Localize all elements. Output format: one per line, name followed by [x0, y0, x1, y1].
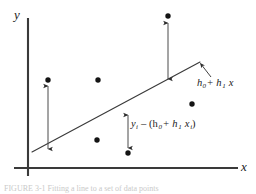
- point-upper-mid: [95, 77, 100, 82]
- figure-caption: FIGURE 3-1 Fitting a line to a set of da…: [4, 184, 254, 194]
- line-eq-x: x: [226, 77, 234, 88]
- residual-y: y: [131, 118, 136, 129]
- figure-canvas: [0, 0, 256, 194]
- line-eq-pointer: [201, 64, 212, 78]
- regression-figure: y x h0+ h1 x yi – (h0+ h1 xi) FIGURE 3-1…: [0, 0, 256, 194]
- residual-close-paren: ): [192, 118, 196, 129]
- point-residual-end: [125, 150, 130, 155]
- point-top-right: [165, 13, 170, 18]
- data-points-group: [45, 13, 194, 155]
- residual-minus-open: – (h: [138, 118, 158, 129]
- point-upper-left: [45, 77, 50, 82]
- line-eq-plus-h: + h: [206, 77, 222, 88]
- residual-equation-label: yi – (h0+ h1 xi): [131, 119, 196, 131]
- point-right: [189, 101, 194, 106]
- x-axis-label: x: [241, 160, 247, 173]
- regression-line: [32, 62, 200, 152]
- point-lower-mid: [94, 137, 99, 142]
- regression-line-equation-label: h0+ h1 x: [197, 78, 234, 90]
- y-axis-label: y: [14, 8, 20, 21]
- residual-plus-h: + h: [162, 118, 178, 129]
- residual-x: x: [182, 118, 190, 129]
